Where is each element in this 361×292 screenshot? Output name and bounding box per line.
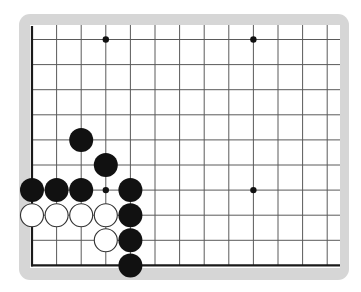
white-stone[interactable] xyxy=(94,204,117,227)
black-stone[interactable] xyxy=(118,178,142,202)
go-board-grid[interactable] xyxy=(0,0,361,292)
black-stone[interactable] xyxy=(69,178,93,202)
white-stone[interactable] xyxy=(21,204,44,227)
black-stone[interactable] xyxy=(118,228,142,252)
black-stone[interactable] xyxy=(20,178,44,202)
black-stone[interactable] xyxy=(45,178,69,202)
black-stone[interactable] xyxy=(94,153,118,177)
white-stone[interactable] xyxy=(70,204,93,227)
star-point-icon xyxy=(103,36,109,42)
black-stone[interactable] xyxy=(118,203,142,227)
white-stone[interactable] xyxy=(94,229,117,252)
star-point-icon xyxy=(250,36,256,42)
white-stone[interactable] xyxy=(45,204,68,227)
star-point-icon xyxy=(103,187,109,193)
black-stone[interactable] xyxy=(118,253,142,277)
star-point-icon xyxy=(250,187,256,193)
black-stone[interactable] xyxy=(69,128,93,152)
